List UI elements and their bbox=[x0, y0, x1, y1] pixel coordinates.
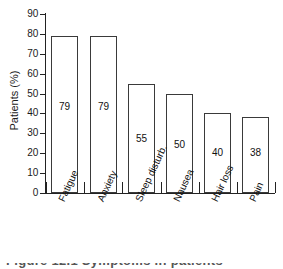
y-tick-30 bbox=[40, 133, 45, 134]
x-axis-line bbox=[45, 193, 275, 194]
y-axis-line bbox=[45, 13, 46, 194]
y-tick-label-wrap: 60 bbox=[16, 69, 38, 79]
y-tick-50 bbox=[40, 94, 45, 95]
figure-caption: Figure 12.1 Symptoms in patients bbox=[6, 263, 223, 268]
y-tick-label-0: 0 bbox=[16, 188, 38, 198]
bar-value-label-0: 79 bbox=[51, 102, 78, 112]
y-tick-90 bbox=[40, 14, 45, 15]
y-tick-label-wrap: 0 bbox=[16, 188, 38, 198]
y-tick-label-50: 50 bbox=[16, 89, 38, 99]
y-tick-80 bbox=[40, 34, 45, 35]
y-tick-0 bbox=[40, 193, 45, 194]
x-tick-1 bbox=[84, 182, 85, 193]
y-tick-10 bbox=[40, 173, 45, 174]
y-tick-label-10: 10 bbox=[16, 168, 38, 178]
x-tick-2 bbox=[122, 182, 123, 193]
y-tick-label-20: 20 bbox=[16, 148, 38, 158]
y-tick-label-40: 40 bbox=[16, 108, 38, 118]
bar-value-label-4: 40 bbox=[204, 148, 231, 158]
x-tick-5 bbox=[237, 182, 238, 193]
x-tick-3 bbox=[161, 182, 162, 193]
y-tick-label-60: 60 bbox=[16, 69, 38, 79]
y-axis-title: Patients (%) bbox=[9, 46, 20, 156]
figure-caption-strip: Figure 12.1 Symptoms in patients bbox=[0, 263, 283, 269]
y-tick-label-wrap: 90 bbox=[16, 9, 38, 19]
bar-anxiety bbox=[90, 36, 117, 193]
y-tick-label-90: 90 bbox=[16, 9, 38, 19]
y-tick-40 bbox=[40, 113, 45, 114]
x-tick-4 bbox=[199, 182, 200, 193]
y-tick-label-wrap: 70 bbox=[16, 49, 38, 59]
x-tick-0 bbox=[46, 182, 47, 193]
y-tick-label-wrap: 20 bbox=[16, 148, 38, 158]
y-tick-20 bbox=[40, 153, 45, 154]
y-tick-label-wrap: 50 bbox=[16, 89, 38, 99]
y-tick-label-wrap: 40 bbox=[16, 108, 38, 118]
y-tick-label-30: 30 bbox=[16, 128, 38, 138]
y-tick-label-70: 70 bbox=[16, 49, 38, 59]
bar-value-label-2: 55 bbox=[128, 134, 155, 144]
y-tick-label-wrap: 80 bbox=[16, 29, 38, 39]
x-tick-6 bbox=[275, 182, 276, 193]
y-tick-70 bbox=[40, 54, 45, 55]
y-tick-label-80: 80 bbox=[16, 29, 38, 39]
bar-chart-figure: Patients (%) 0102030405060708090 7979555… bbox=[0, 0, 283, 269]
bar-value-label-3: 50 bbox=[166, 140, 193, 150]
bar-value-label-1: 79 bbox=[90, 102, 117, 112]
y-tick-label-wrap: 30 bbox=[16, 128, 38, 138]
y-tick-label-wrap: 10 bbox=[16, 168, 38, 178]
y-tick-60 bbox=[40, 74, 45, 75]
bar-value-label-5: 38 bbox=[242, 148, 269, 158]
